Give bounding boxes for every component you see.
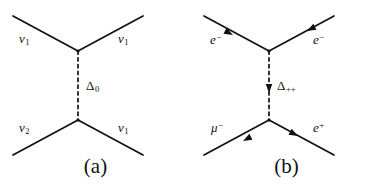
leg-label-a-upper-right-sub: 1 (124, 37, 129, 47)
diagram-panel-b: e− e− μ− e+ Δ++ (b) (191, 0, 382, 193)
leg-label-b-lower-right-base: e (313, 120, 319, 135)
leg-label-b-lower-left-base: μ (211, 120, 218, 135)
leg-label-a-upper-left-base: ν (19, 31, 25, 46)
arrowhead-b-lower-left (241, 134, 252, 144)
propagator-label-a-sub: 0 (94, 84, 99, 94)
propagator-label-b-sub: ++ (285, 84, 295, 94)
leg-label-b-upper-right-base: e (313, 32, 319, 47)
leg-label-a-lower-right-base: ν (118, 120, 124, 135)
leg-label-a-lower-right-sub: 1 (124, 126, 129, 136)
vertex-a-bottom (76, 118, 79, 121)
leg-label-a-lower-left-sub: 2 (25, 126, 30, 136)
leg-label-b-upper-left-sup: − (216, 32, 222, 42)
vertex-b-bottom (267, 118, 270, 121)
leg-a-upper-right-line (78, 16, 143, 51)
propagator-label-b: Δ++ (277, 79, 295, 93)
arrowhead-b-propagator (266, 84, 273, 93)
propagator-label-a: Δ0 (86, 79, 99, 93)
leg-label-a-upper-left-sub: 1 (25, 37, 30, 47)
leg-a-lower-right-line (78, 120, 143, 155)
leg-label-a-lower-left-base: ν (19, 120, 25, 135)
leg-label-a-lower-left: ν2 (19, 121, 30, 135)
leg-label-b-upper-left: e− (210, 33, 221, 46)
leg-label-b-lower-right: e+ (313, 121, 324, 134)
leg-label-a-upper-left: ν1 (19, 32, 30, 46)
leg-label-b-lower-left-sup: − (218, 120, 224, 130)
leg-label-b-upper-left-base: e (210, 32, 216, 47)
feynman-diagram-figure: ν1 ν1 ν2 ν1 Δ0 (a) (0, 0, 382, 193)
leg-label-a-upper-right: ν1 (118, 32, 129, 46)
panel-caption-b: (b) (191, 156, 382, 177)
leg-label-a-upper-right-base: ν (118, 31, 124, 46)
panel-caption-a: (a) (0, 156, 191, 177)
diagram-b-arrowheads (224, 24, 317, 144)
diagram-panel-a: ν1 ν1 ν2 ν1 Δ0 (a) (0, 0, 191, 193)
leg-label-b-upper-right-sup: − (319, 32, 325, 42)
leg-label-a-lower-right: ν1 (118, 121, 129, 135)
vertex-b-top (267, 49, 270, 52)
leg-label-b-lower-left: μ− (211, 121, 223, 134)
leg-label-b-lower-right-sup: + (319, 120, 325, 130)
arrowhead-b-lower-right (289, 129, 300, 139)
vertex-a-top (76, 49, 79, 52)
leg-label-b-upper-right: e− (313, 33, 324, 46)
